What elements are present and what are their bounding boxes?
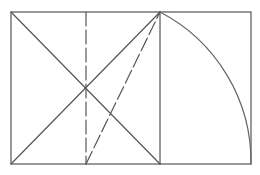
outer-rectangle: [11, 12, 251, 164]
radius-line: [86, 12, 160, 164]
golden-arc: [160, 12, 251, 164]
golden-rectangle-diagram: [0, 0, 260, 175]
diagram-canvas: [0, 0, 260, 175]
